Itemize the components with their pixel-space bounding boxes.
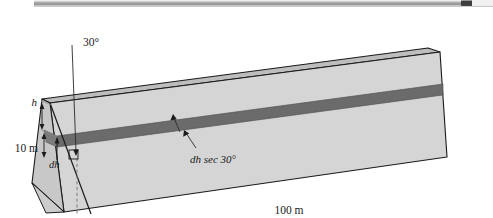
- horizontal-scrollbar[interactable]: [34, 0, 493, 7]
- scrollbar-end-button[interactable]: [461, 1, 472, 7]
- label-dh: dh: [49, 159, 60, 170]
- label-dh-sec-30-text: dh sec 30°: [190, 153, 237, 165]
- label-dh-sec-30: dh sec 30°: [190, 153, 237, 165]
- figure-root: 30° h 10 m dh: [0, 0, 493, 218]
- label-100m: 100 m: [274, 204, 303, 216]
- angle-label: 30°: [83, 36, 100, 48]
- label-10m: 10 m: [15, 142, 38, 154]
- scrollbar-thumb-highlight: [34, 1, 461, 2]
- label-h: h: [32, 96, 38, 108]
- dam-wedge-diagram: 30° h 10 m dh: [0, 0, 493, 218]
